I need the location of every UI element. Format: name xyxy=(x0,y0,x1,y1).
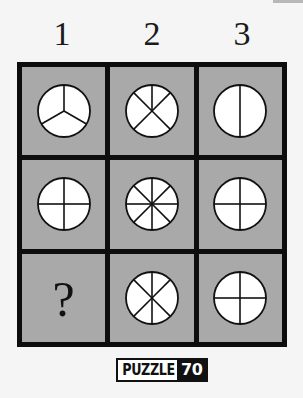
cell-r2-c2 xyxy=(110,160,193,248)
cell-r1-c1 xyxy=(22,67,105,155)
cell-r3-c1-missing[interactable]: ? xyxy=(22,254,105,342)
divided-circle-8-segments-icon xyxy=(124,176,180,232)
cell-r1-c3 xyxy=(199,67,282,155)
badge-label: PUZZLE xyxy=(118,360,168,380)
cell-r2-c3 xyxy=(199,160,282,248)
column-headers: 1 2 3 xyxy=(17,14,287,54)
cell-r2-c1 xyxy=(22,160,105,248)
divided-circle-6-segments-icon xyxy=(124,270,180,326)
divided-circle-4-segments-icon xyxy=(36,176,92,232)
cell-r1-c2 xyxy=(110,67,193,155)
divided-circle-4-segments-icon xyxy=(212,270,268,326)
badge-number: 70 xyxy=(177,360,206,380)
puzzle-grid: ? xyxy=(17,62,287,347)
puzzle-page: 1 2 3 ? PUZZLE 70 xyxy=(0,0,303,398)
question-mark: ? xyxy=(53,274,75,324)
divided-circle-3-segments-icon xyxy=(36,83,92,139)
column-header-2: 2 xyxy=(107,14,197,54)
divided-circle-2-segments-icon xyxy=(212,83,268,139)
cell-r3-c3 xyxy=(199,254,282,342)
cell-r3-c2 xyxy=(110,254,193,342)
corner-bar xyxy=(273,0,303,3)
divided-circle-4-segments-icon xyxy=(212,176,268,232)
divided-circle-5-segments-icon xyxy=(124,83,180,139)
column-header-3: 3 xyxy=(197,14,287,54)
puzzle-badge: PUZZLE 70 xyxy=(116,358,208,382)
column-header-1: 1 xyxy=(17,14,107,54)
